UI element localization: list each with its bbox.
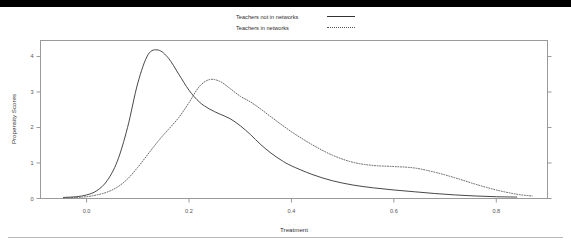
x-axis-title: Treatment — [280, 226, 308, 233]
plot-area: 01234 0.00.20.40.60.8 Propensity Scores … — [0, 0, 571, 245]
figure-canvas: Teachers not in networks Teachers in net… — [0, 0, 571, 245]
y-axis-title: Propensity Scores — [10, 94, 17, 144]
y-tick-label: 3 — [30, 89, 33, 95]
y-tick-label: 4 — [30, 53, 33, 59]
series-curves — [64, 50, 533, 198]
y-tick-label: 0 — [30, 196, 33, 202]
series-curve-solid — [64, 50, 517, 198]
x-tick-label: 0.0 — [83, 208, 91, 214]
plot-frame-rect — [41, 41, 548, 199]
x-tick-label: 0.4 — [288, 208, 296, 214]
plot-frame — [41, 41, 548, 199]
series-curve-dotted — [64, 79, 533, 198]
x-tick-label: 0.6 — [390, 208, 398, 214]
x-tick-label: 0.2 — [185, 208, 193, 214]
density-plot-svg: 01234 0.00.20.40.60.8 Propensity Scores … — [0, 0, 571, 245]
bottom-horizontal-rule — [8, 237, 563, 238]
y-tick-label: 2 — [30, 124, 33, 130]
x-tick-label: 0.8 — [492, 208, 500, 214]
y-tick-label: 1 — [30, 160, 33, 166]
x-axis-ticks: 0.00.20.40.60.8 — [83, 199, 500, 214]
